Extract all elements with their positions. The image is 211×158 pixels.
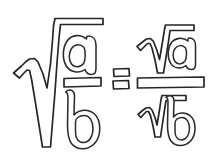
- right-denominator-letter-b-counter: [175, 118, 190, 141]
- formula-drawing: [0, 0, 211, 158]
- formula-canvas: √(a/b) = √a / √b Square root of a quotie…: [0, 0, 211, 158]
- right-fraction-bar: [138, 77, 205, 88]
- equals-sign-lower-bar: [113, 81, 129, 90]
- left-numerator-letter-a-counter: [69, 45, 85, 67]
- equals-sign-upper-bar: [114, 69, 130, 77]
- right-numerator-letter-a-counter: [173, 46, 186, 64]
- left-denominator-letter-b-counter: [76, 116, 94, 143]
- left-fraction-bar: [64, 78, 101, 88]
